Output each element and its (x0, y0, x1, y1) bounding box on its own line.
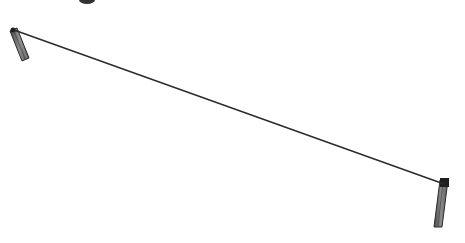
diagram-canvas (0, 0, 465, 243)
wire (14, 30, 444, 184)
right-post (434, 178, 449, 227)
cropped-top-mark (79, 0, 95, 4)
